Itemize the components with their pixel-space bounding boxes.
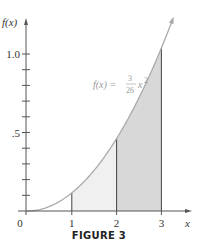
figure-caption: FIGURE 3	[0, 229, 198, 241]
x-tick-label: 1	[69, 217, 75, 229]
y-axis-arrow-icon	[24, 18, 28, 25]
x-ticks: 0123	[17, 211, 164, 229]
x-axis-label: x	[184, 217, 190, 229]
figure-chart: 1.0.5 0123 f(x) x f(x) = 3 26 x 2	[0, 0, 198, 248]
curve-arrow-icon	[169, 17, 174, 24]
y-tick-label: 1.0	[6, 48, 20, 60]
y-axis-label: f(x)	[2, 16, 18, 29]
svg-text:2: 2	[144, 76, 148, 85]
function-label: f(x) = 3 26 x 2	[93, 74, 148, 95]
x-tick-label: 0	[17, 217, 23, 229]
svg-text:3: 3	[128, 74, 132, 83]
svg-text:x: x	[137, 79, 143, 90]
shaded-region	[117, 48, 162, 211]
y-tick-label: .5	[12, 127, 21, 139]
svg-text:26: 26	[126, 86, 134, 95]
x-tick-label: 3	[159, 217, 165, 229]
svg-text:f(x) =: f(x) =	[93, 79, 116, 91]
x-axis-arrow-icon	[185, 209, 192, 213]
x-tick-label: 2	[114, 217, 120, 229]
